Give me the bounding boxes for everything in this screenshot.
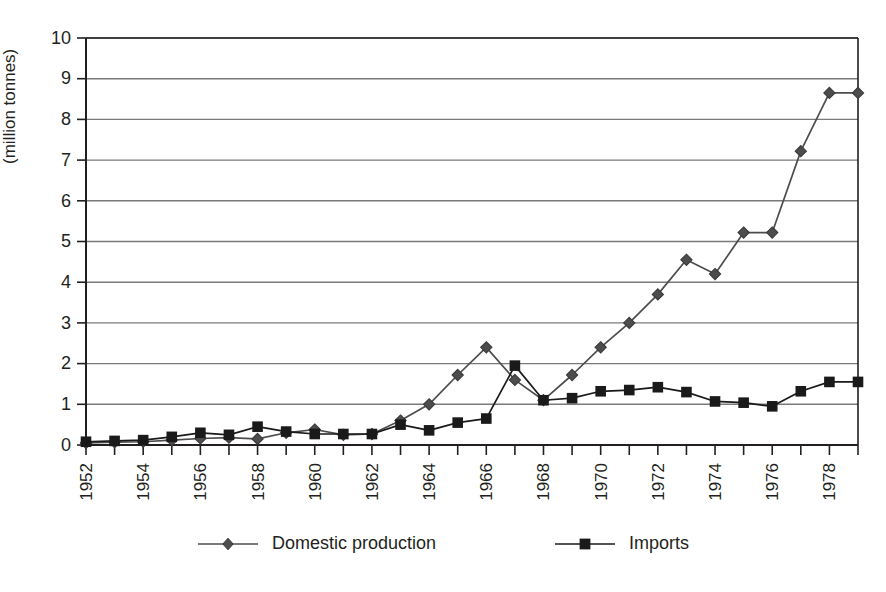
data-point-marker[interactable]	[195, 427, 206, 438]
data-point-marker[interactable]	[252, 433, 263, 444]
square-marker-icon	[554, 535, 616, 553]
x-axis-tick-label: 1952	[77, 463, 96, 501]
y-axis-tick-label: 6	[61, 191, 71, 211]
y-axis-tick-label: 10	[51, 28, 71, 48]
x-axis-tick-label: 1978	[820, 463, 839, 501]
data-point-marker[interactable]	[510, 360, 521, 371]
data-point-marker[interactable]	[853, 377, 864, 388]
data-point-marker[interactable]	[138, 435, 149, 446]
data-point-marker[interactable]	[824, 87, 835, 98]
y-axis-tick-label: 4	[61, 272, 71, 292]
data-point-marker[interactable]	[796, 386, 807, 397]
x-axis-tick-label: 1972	[649, 463, 668, 501]
data-point-marker[interactable]	[166, 432, 177, 443]
data-point-marker[interactable]	[567, 393, 578, 404]
chart-legend: Domestic production Imports	[0, 533, 886, 554]
x-axis-tick-label: 1976	[763, 463, 782, 501]
data-point-marker[interactable]	[452, 417, 463, 428]
data-point-marker[interactable]	[795, 146, 806, 157]
y-axis-tick-label: 9	[61, 68, 71, 88]
data-point-marker[interactable]	[481, 413, 492, 424]
data-point-marker[interactable]	[653, 382, 664, 393]
x-axis-tick-label: 1964	[420, 463, 439, 501]
y-axis-tick-label: 1	[61, 394, 71, 414]
data-point-marker[interactable]	[738, 397, 749, 408]
x-axis-tick-label: 1974	[706, 463, 725, 501]
x-axis-tick-label: 1966	[477, 463, 496, 501]
x-axis-tick-label: 1956	[191, 463, 210, 501]
data-point-marker[interactable]	[224, 430, 235, 441]
gridlines-group	[86, 38, 858, 404]
data-point-marker[interactable]	[767, 227, 778, 238]
data-point-marker[interactable]	[852, 87, 863, 98]
y-axis-tick-label: 7	[61, 150, 71, 170]
y-axis-tick-label: 3	[61, 313, 71, 333]
data-point-marker[interactable]	[424, 425, 435, 436]
x-axis-tick-label: 1962	[363, 463, 382, 501]
x-axis-ticks-group	[86, 445, 858, 455]
y-axis-tick-label: 8	[61, 109, 71, 129]
data-point-marker[interactable]	[681, 387, 692, 398]
x-axis-labels-group: 1952195419561958196019621964196619681970…	[77, 463, 839, 501]
data-point-marker[interactable]	[281, 426, 292, 437]
y-axis-tick-label: 5	[61, 231, 71, 251]
data-point-marker[interactable]	[81, 436, 92, 447]
data-point-marker[interactable]	[367, 429, 378, 440]
diamond-marker-icon	[197, 535, 259, 553]
legend-label-domestic-production: Domestic production	[272, 533, 436, 554]
data-point-marker[interactable]	[710, 396, 721, 407]
data-point-marker[interactable]	[395, 419, 406, 430]
data-series-group	[80, 87, 863, 448]
data-point-marker[interactable]	[767, 401, 778, 412]
series-domestic-production	[80, 87, 863, 448]
data-point-marker[interactable]	[309, 429, 320, 440]
data-point-marker[interactable]	[624, 385, 635, 396]
chart-figure: (million tonnes) 012345678910 1952195419…	[0, 0, 886, 592]
x-axis-tick-label: 1954	[134, 463, 153, 501]
x-axis-tick-label: 1958	[249, 463, 268, 501]
data-point-marker[interactable]	[595, 386, 606, 397]
data-point-marker[interactable]	[338, 429, 349, 440]
data-point-marker[interactable]	[709, 268, 720, 279]
data-point-marker[interactable]	[109, 436, 120, 447]
y-axis-tick-label: 0	[61, 435, 71, 455]
data-point-marker[interactable]	[538, 395, 549, 406]
data-point-marker[interactable]	[738, 227, 749, 238]
x-axis-tick-label: 1960	[306, 463, 325, 501]
y-axis-ticks-group: 012345678910	[51, 28, 86, 455]
x-axis-tick-label: 1968	[534, 463, 553, 501]
legend-label-imports: Imports	[629, 533, 689, 554]
y-axis-tick-label: 2	[61, 353, 71, 373]
x-axis-tick-label: 1970	[592, 463, 611, 501]
legend-entry-imports[interactable]: Imports	[554, 533, 689, 554]
series-line	[86, 93, 858, 443]
data-point-marker[interactable]	[252, 421, 263, 432]
data-point-marker[interactable]	[824, 377, 835, 388]
chart-plot-area: 012345678910 195219541956195819601962196…	[0, 0, 886, 592]
legend-entry-domestic-production[interactable]: Domestic production	[197, 533, 436, 554]
